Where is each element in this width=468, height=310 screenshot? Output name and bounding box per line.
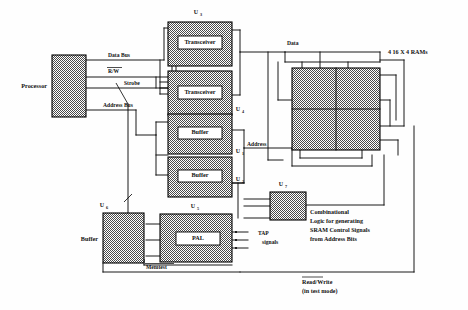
note-read-write-test-mode: Read/Write (in test mode) (302, 277, 338, 295)
svg-text:U: U (236, 148, 241, 154)
label-pal: PAL (192, 234, 204, 241)
label-transceiver-u3: Transceiver (184, 38, 215, 45)
svg-text:U: U (100, 202, 105, 208)
svg-text:Combinational: Combinational (310, 209, 349, 215)
svg-text:SRAM Control Signals: SRAM Control Signals (310, 227, 370, 233)
ref-designator-u7: U 7 (279, 181, 287, 189)
svg-text:(in test mode): (in test mode) (302, 288, 338, 295)
svg-text:from Address Bits: from Address Bits (310, 236, 357, 242)
label-strobe: Strobe (124, 80, 140, 86)
label-tap-signals-line1: TAP (258, 230, 269, 236)
label-buffer-u6: Buffer (81, 235, 98, 242)
svg-text:Read/Write: Read/Write (302, 279, 333, 285)
ref-designator-u6: U 6 (100, 202, 108, 210)
svg-text:Memtest: Memtest (146, 264, 167, 270)
svg-text:U: U (279, 181, 284, 187)
svg-text:5: 5 (197, 206, 199, 211)
note-combinational-logic: Combinational Logic for generating SRAM … (310, 209, 370, 242)
label-memtest: Memtest (145, 264, 174, 271)
ref-designator-u4: U 4 (236, 106, 245, 114)
svg-text:1: 1 (242, 151, 244, 156)
svg-text:R/W: R/W (108, 68, 120, 74)
svg-text:U: U (194, 9, 199, 15)
label-data: Data (287, 40, 299, 46)
diagram-canvas: Processor Transceiver Transceiver Buffer… (0, 0, 468, 310)
ref-designator-u5: U 5 (191, 203, 199, 211)
block-combinational-logic-u7 (270, 192, 306, 220)
ref-designator-u3: U 3 (194, 9, 202, 17)
svg-text:U: U (236, 106, 241, 112)
svg-text:Logic for generating: Logic for generating (310, 218, 363, 224)
block-buffer-u6 (103, 213, 144, 263)
ref-designator-u1: U 1 (236, 148, 244, 156)
svg-text:U: U (191, 203, 196, 209)
svg-text:6: 6 (106, 205, 108, 210)
label-data-bus: Data Bus (108, 52, 131, 58)
label-rw: R/W (107, 68, 122, 75)
svg-text:7: 7 (285, 184, 287, 189)
label-buffer-u1: Buffer (191, 128, 208, 135)
label-processor: Processor (21, 82, 47, 89)
label-tap-signals-line2: signals (262, 239, 279, 245)
svg-text:U: U (236, 176, 241, 182)
svg-text:3: 3 (200, 12, 202, 17)
label-buffer-u2: Buffer (191, 171, 208, 178)
label-ram-array-caption: 4 16 X 4 RAMs (388, 49, 428, 55)
label-address: Address (247, 141, 267, 147)
svg-text:2: 2 (242, 179, 244, 184)
wire-group-processor-buses (86, 28, 176, 230)
block-diagram-figure: Processor Transceiver Transceiver Buffer… (0, 0, 468, 310)
label-address-bus: Address Bus (103, 102, 134, 108)
svg-text:4: 4 (242, 109, 245, 114)
label-transceiver-u4: Transceiver (184, 88, 215, 95)
block-processor (52, 55, 86, 117)
